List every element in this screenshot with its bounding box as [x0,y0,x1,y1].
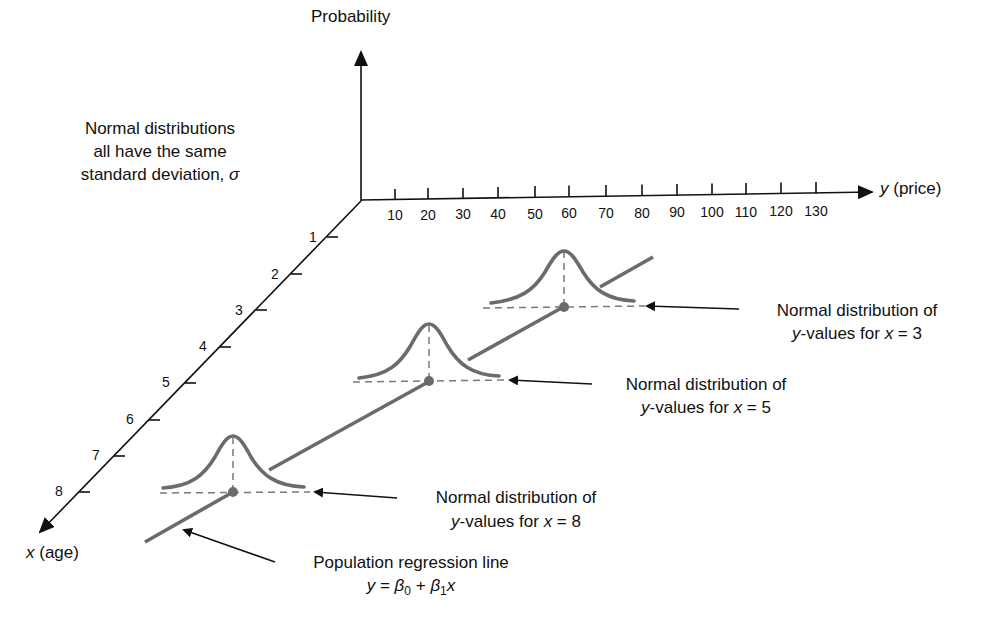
tick-label: 50 [527,206,543,222]
mean-point [559,302,569,312]
mean-point [228,487,238,497]
age-axis-tick-labels: 1 2 3 4 5 6 7 8 [55,229,317,499]
note-line-3: standard deviation, σ [81,165,240,184]
pointer-arrow-x8 [315,492,397,498]
annotation-line-1: Normal distribution of [626,375,787,394]
mean-point [424,376,434,386]
tick-label: 110 [735,204,758,220]
tick-label: 5 [162,374,170,390]
price-axis-label: y (price) [879,179,941,198]
age-axis-line [40,201,361,532]
regression-segment [468,306,565,360]
annotation-line-1: Normal distribution of [436,488,597,507]
regression-segment [600,257,653,287]
tick-label: 130 [804,203,828,219]
regression-segment [269,381,430,470]
regression-label: Population regression line [313,553,509,572]
tick-label: 3 [235,302,243,318]
tick-label: 20 [420,207,436,223]
regression-diagram: Probability y (price) 10 20 30 40 50 6 [0,0,997,627]
normal-curve [491,251,634,303]
price-axis: y (price) 10 20 30 40 50 60 70 80 90 [361,179,941,223]
distribution-x8 [160,436,310,497]
tick-label: 4 [199,338,207,354]
tick-label: 60 [561,205,577,221]
tick-label: 2 [271,266,279,282]
pointer-arrow-x3 [647,306,739,309]
tick-label: 7 [92,447,100,463]
tick-label: 40 [490,206,506,222]
annotation-x8: Normal distribution of y-values for x = … [436,488,597,531]
annotation-x3: Normal distribution of y-values for x = … [777,301,938,343]
note-line-1: Normal distributions [85,119,235,138]
tick-label: 8 [55,483,63,499]
age-axis: x (age) 1 2 3 4 5 6 7 8 [25,201,361,562]
price-axis-tick-labels: 10 20 30 40 50 60 70 80 90 100 110 120 1… [387,203,828,223]
age-axis-label: x (age) [25,543,79,562]
pointer-arrow-regression [184,530,275,562]
regression-equation: y = β0 + β1x [366,576,456,598]
annotation-line-1: Normal distribution of [777,301,938,320]
probability-axis-label: Probability [311,7,391,26]
tick-label: 30 [455,206,471,222]
annotation-x5: Normal distribution of y-values for x = … [626,375,787,417]
tick-label: 10 [387,207,403,223]
distribution-x3 [483,251,645,312]
pointer-arrow-x5 [510,380,592,384]
tick-label: 1 [309,229,317,245]
distribution-x5 [353,324,505,386]
annotation-line-2: y-values for x = 8 [450,512,581,531]
note-line-2: all have the same [93,142,226,161]
probability-axis: Probability [311,7,391,201]
tick-label: 120 [769,203,793,219]
sigma-note: Normal distributions all have the same s… [81,119,240,184]
regression-segment [145,492,233,542]
annotation-line-2: y-values for x = 3 [791,324,922,343]
tick-label: 6 [126,411,134,427]
tick-label: 90 [669,204,685,220]
tick-label: 70 [598,205,614,221]
tick-label: 100 [700,204,724,220]
price-axis-line [361,192,872,200]
tick-label: 80 [634,205,650,221]
annotation-line-2: y-values for x = 5 [640,398,771,417]
annotation-regression: Population regression line y = β0 + β1x [313,553,509,598]
